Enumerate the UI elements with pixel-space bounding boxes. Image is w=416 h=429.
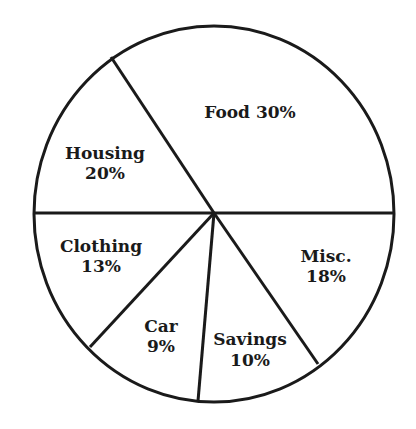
slice-pct-car: 9%: [147, 336, 175, 356]
slice-pct-housing: 20%: [85, 163, 125, 183]
slice-pct-clothing: 13%: [81, 256, 121, 276]
pie-chart: Food 30% Housing 20% Clothing 13% Misc. …: [0, 0, 416, 429]
slice-pct-misc: 18%: [306, 266, 346, 286]
slice-label-food: Food 30%: [204, 102, 295, 122]
slice-label-misc: Misc.: [300, 246, 351, 266]
slice-pct-savings: 10%: [230, 350, 270, 370]
slice-label-housing: Housing: [65, 143, 145, 163]
slice-label-car: Car: [144, 316, 179, 336]
slice-label-savings: Savings: [213, 329, 286, 349]
slice-label-clothing: Clothing: [60, 236, 142, 256]
